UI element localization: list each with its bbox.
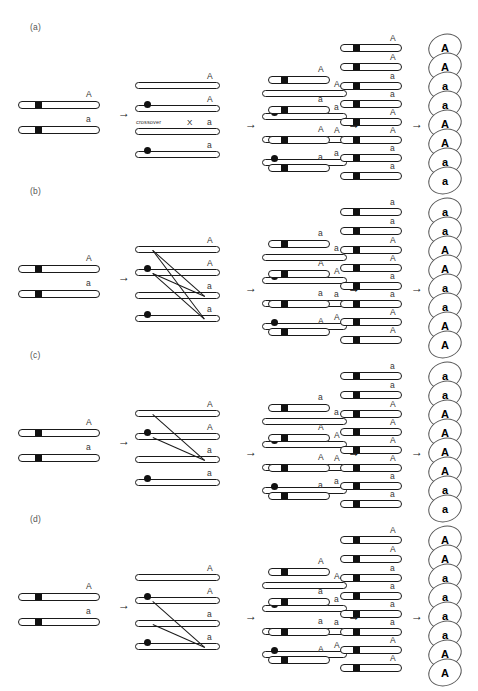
panel-c: (c)Aa→AAaaaAAa→→aAAa→aaAAAAaa→aaAAAAaa [0,336,478,501]
stage4-allele: A [318,423,324,432]
centromere [353,283,360,289]
chromosome [268,106,330,114]
centromere [353,373,360,379]
chromatid [135,574,220,581]
centromere [353,83,360,89]
centromere-dot [271,483,278,490]
stage2-allele: a [207,282,212,291]
stage2-allele: A [207,95,213,104]
panel-label: (c) [30,350,41,360]
centromere [35,455,42,461]
stage3-allele: a [334,595,339,604]
stage-arrow-1: → [118,271,130,283]
stage3-allele: a [334,290,339,299]
stage2-allele: a [207,305,212,314]
centromere [281,329,288,335]
centromere [353,119,360,125]
centromere [353,228,360,234]
centromere [35,266,42,272]
chromosome [268,492,330,500]
stage4-allele: a [318,229,323,238]
stage5-allele: A [390,654,396,663]
centromere [353,265,360,271]
chromosome [268,300,330,308]
stage5-allele: a [390,600,395,609]
stage5-allele: A [390,34,396,43]
stage1-allele: a [86,115,91,124]
centromere [281,465,288,471]
chromatid [135,456,220,463]
centromere [281,657,288,663]
chromatid [135,82,220,89]
stage5-allele: a [390,490,395,499]
centromere [353,465,360,471]
chromosome [340,664,402,672]
chromatid [135,410,220,417]
panel-label: (a) [30,22,41,32]
stage1-allele: A [86,254,92,263]
stage5-allele: a [390,618,395,627]
centromere [353,155,360,161]
stage3-allele: A [334,267,340,276]
stage5-allele: A [390,545,396,554]
stage3-allele: A [334,431,340,440]
centromere [281,137,288,143]
stage4-allele: a [318,393,323,402]
centromere [35,430,42,436]
centromere [281,271,288,277]
stage-arrow-5: → [411,610,423,622]
centromere [281,569,288,575]
chromatid [135,246,220,253]
stage3-allele: A [334,454,340,463]
stage5-allele: a [390,582,395,591]
centromere [353,447,360,453]
centromere-dot [144,429,151,436]
centromere [353,593,360,599]
centromere [353,537,360,543]
centromere [353,556,360,562]
chromosome [18,290,100,298]
centromere [353,611,360,617]
stage3-allele: A [334,80,340,89]
chromosome [268,136,330,144]
stage5-allele: a [390,362,395,371]
stage2-allele: A [207,236,213,245]
spore: A [425,654,466,690]
stage5-allele: A [390,418,396,427]
stage1-allele: a [86,279,91,288]
centromere [353,629,360,635]
stage5-allele: A [390,108,396,117]
stage5-allele: a [390,381,395,390]
stage2-allele: A [207,259,213,268]
chromosome [340,44,402,52]
stage3-allele: A [334,313,340,322]
stage-arrow-5: → [411,118,423,130]
centromere [353,64,360,70]
centromere-dot [271,647,278,654]
panel-label: (d) [30,514,41,524]
chromosome [18,126,100,134]
centromere-dot [271,155,278,162]
chromosome [18,265,100,273]
stage3-allele: a [334,618,339,627]
stage2-allele: a [207,610,212,619]
chromosome [268,404,330,412]
stage5-allele: A [390,526,396,535]
centromere [281,165,288,171]
centromere [35,127,42,133]
centromere [353,411,360,417]
stage2-allele: A [207,72,213,81]
stage5-allele: A [390,126,396,135]
stage-arrow-2: → [245,282,257,294]
chromosome [340,208,402,216]
stage5-allele: A [390,636,396,645]
centromere [353,301,360,307]
chromatid [262,582,347,589]
stage5-allele: A [390,400,396,409]
stage4-allele: A [318,259,324,268]
stage-arrow-2: → [245,610,257,622]
centromere [281,599,288,605]
centromere [35,619,42,625]
stage2-allele: A [207,564,213,573]
centromere [281,241,288,247]
